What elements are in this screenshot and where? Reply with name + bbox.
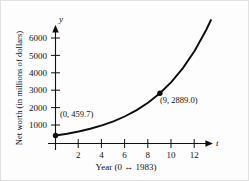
data-point-label-1: (9, 2889.0)	[160, 95, 198, 105]
x-tick-label-8: 8	[146, 150, 151, 160]
y-axis-symbol: y	[58, 14, 63, 24]
chart-svg: 2 4 6 8 10 12 1000 2000 3000 4000 5000 6…	[0, 0, 249, 181]
x-tick-label-6: 6	[122, 150, 127, 160]
x-axis-title: Year (0 ↔ 1983)	[96, 162, 157, 172]
data-point-marker-0	[53, 133, 58, 138]
x-tick-label-12: 12	[190, 150, 199, 160]
y-tick-label-6000: 6000	[29, 33, 48, 43]
data-point-label-0: (0, 459.7)	[60, 109, 93, 119]
y-tick-label-3000: 3000	[29, 85, 48, 95]
y-tick-label-4000: 4000	[29, 68, 48, 78]
y-tick-label-5000: 5000	[29, 51, 48, 61]
figure-container: 2 4 6 8 10 12 1000 2000 3000 4000 5000 6…	[0, 0, 249, 181]
x-tick-label-4: 4	[99, 150, 104, 160]
x-tick-label-10: 10	[167, 150, 177, 160]
y-tick-label-2000: 2000	[29, 103, 48, 113]
y-tick-label-1000: 1000	[29, 120, 48, 130]
y-axis-title: Net worth (in millions of dollars)	[14, 31, 24, 145]
x-axis-symbol: t	[216, 138, 219, 148]
x-tick-label-2: 2	[76, 150, 81, 160]
